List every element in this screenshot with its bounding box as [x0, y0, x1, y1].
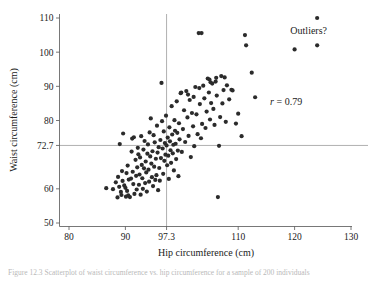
data-point: [194, 112, 198, 116]
data-point: [131, 182, 135, 186]
data-point: [157, 166, 161, 170]
data-point: [212, 123, 216, 127]
data-point: [157, 145, 161, 149]
x-tick-label: 130: [344, 232, 359, 242]
data-point: [239, 134, 243, 138]
data-point: [130, 149, 134, 153]
data-point: [153, 140, 157, 144]
data-point: [199, 31, 203, 35]
x-tick-label: 120: [287, 232, 302, 242]
data-point: [198, 102, 202, 106]
data-point: [293, 47, 297, 51]
data-point: [170, 132, 174, 136]
data-point: [164, 143, 168, 147]
y-tick-label: 80: [44, 116, 54, 126]
data-point: [159, 156, 163, 160]
y-tick-label: 72.7: [37, 141, 54, 151]
data-point: [175, 131, 179, 135]
data-point: [186, 134, 190, 138]
data-point: [147, 180, 151, 184]
data-point: [253, 95, 257, 99]
x-tick-label: 110: [231, 232, 245, 242]
data-point: [168, 139, 172, 143]
data-point: [148, 130, 152, 134]
data-point: [141, 147, 145, 151]
y-tick-label: 90: [44, 82, 54, 92]
data-point: [166, 154, 170, 158]
correlation-annotation: r = 0.79: [270, 96, 302, 107]
data-point: [174, 157, 178, 161]
data-point: [177, 121, 181, 125]
data-point: [158, 138, 162, 142]
data-point: [161, 146, 165, 150]
data-point: [202, 96, 206, 100]
data-point: [223, 75, 227, 79]
data-point: [152, 165, 156, 169]
data-point: [124, 171, 128, 175]
data-point: [151, 184, 155, 188]
data-point: [126, 164, 130, 168]
data-point: [181, 127, 185, 131]
data-point: [115, 195, 119, 199]
data-point: [315, 16, 319, 20]
data-point: [170, 104, 174, 108]
data-point: [190, 111, 194, 115]
data-point: [218, 115, 222, 119]
data-point: [135, 187, 139, 191]
data-point: [166, 135, 170, 139]
outliers-annotation: Outliers?: [290, 25, 327, 36]
data-point: [131, 170, 135, 174]
data-point: [214, 79, 218, 83]
x-tick-label: 97.3: [158, 232, 175, 242]
data-point: [186, 92, 190, 96]
data-point: [146, 142, 150, 146]
data-point: [179, 90, 183, 94]
data-point: [117, 185, 121, 189]
data-point: [200, 122, 204, 126]
data-point: [153, 178, 157, 182]
data-point: [176, 148, 180, 152]
data-point: [208, 117, 212, 121]
data-point: [155, 124, 159, 128]
data-point: [205, 110, 209, 114]
data-point: [139, 193, 143, 197]
data-point: [104, 186, 108, 190]
data-point: [114, 180, 118, 184]
data-point: [121, 131, 125, 135]
data-point: [229, 88, 233, 92]
data-point: [133, 158, 137, 162]
data-point: [227, 97, 231, 101]
data-point: [136, 146, 140, 150]
data-point: [139, 134, 143, 138]
data-point: [211, 107, 215, 111]
data-point: [149, 161, 153, 165]
data-point: [197, 86, 201, 90]
x-tick-label: 90: [121, 232, 131, 242]
data-point: [183, 140, 187, 144]
scatter-plot: 506072.78090100110 809097.3110120130 r =…: [0, 0, 370, 281]
data-point: [149, 116, 153, 120]
data-point: [199, 136, 203, 140]
data-point: [111, 187, 115, 191]
data-point: [209, 101, 213, 105]
data-point: [167, 177, 171, 181]
data-point: [192, 144, 196, 148]
y-tick-label: 100: [39, 48, 54, 58]
data-point: [140, 176, 144, 180]
data-point: [116, 175, 120, 179]
data-point: [144, 159, 148, 163]
data-point: [172, 168, 176, 172]
figure-container: 506072.78090100110 809097.3110120130 r =…: [0, 0, 370, 281]
data-point: [141, 187, 145, 191]
data-point: [175, 99, 179, 103]
data-point: [225, 83, 229, 87]
data-point: [250, 71, 254, 75]
data-point: [203, 126, 207, 130]
data-point: [120, 179, 124, 183]
data-point: [154, 157, 158, 161]
data-point: [172, 118, 176, 122]
data-point: [132, 192, 136, 196]
data-point: [156, 188, 160, 192]
data-point: [214, 76, 218, 80]
data-point: [142, 139, 146, 143]
